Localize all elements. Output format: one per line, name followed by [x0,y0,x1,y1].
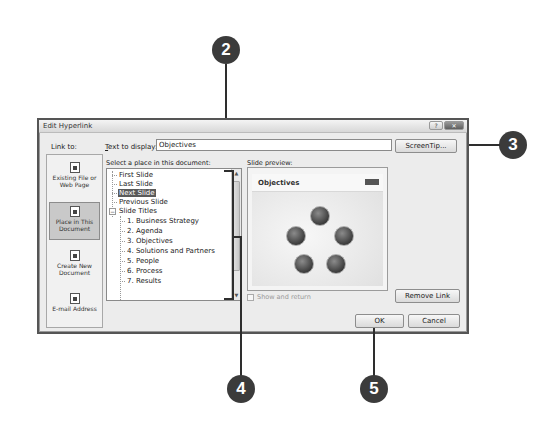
link-to-label: Link to: [51,143,77,151]
show-and-return-label: Show and return [257,293,311,301]
text-to-display-label-text: ext to display: [108,143,157,151]
tree-item-slide-6[interactable]: 6. Process [127,267,162,275]
edit-hyperlink-dialog: Edit Hyperlink ? ✕ Link to: Text to disp… [37,118,469,334]
diagram-bubble [286,226,306,246]
slide-logo [365,179,379,185]
tree-item-slide-4[interactable]: 4. Solutions and Partners [127,247,215,255]
tree-item-slide-5[interactable]: 5. People [127,257,159,265]
diagram-bubble [334,226,354,246]
sidebar-item-label: Create New [49,262,100,269]
text-to-display-label: Text to display: [105,143,157,151]
callout-5: 5 [360,375,388,403]
callout-4-bracket-top [224,170,234,172]
sidebar-item-label: Existing File or [49,174,100,181]
tree-connector [120,221,125,222]
sidebar-item-label: Web Page [49,181,100,188]
file-icon [70,162,80,173]
help-button[interactable]: ? [429,121,443,130]
tree-connector [120,271,125,272]
tree-connector [120,231,125,232]
email-icon [70,293,80,304]
link-to-sidebar: Existing File or Web Page Place in This … [46,154,103,328]
sidebar-item-label: E-mail Address [49,305,100,312]
tree-connector [120,241,125,242]
callout-3: 3 [499,131,527,159]
sidebar-item-existing-file[interactable]: Existing File or Web Page [49,159,100,197]
diagram-bubble [310,206,330,226]
slide-title-bar: Objectives [252,174,383,192]
sidebar-item-label: Document [50,225,99,232]
collapse-icon[interactable]: − [109,208,116,215]
tree-item-slide-3[interactable]: 3. Objectives [127,237,173,245]
ok-button[interactable]: OK [355,314,404,328]
tree-connector [112,184,117,185]
tree-item-previous-slide[interactable]: Previous Slide [119,198,168,206]
sidebar-item-create-new-document[interactable]: Create New Document [49,247,100,285]
document-place-icon [70,206,80,217]
tree-connector [120,261,125,262]
tree-connector [120,281,125,282]
place-tree: − First Slide Last Slide Next Slide Prev… [106,168,242,301]
callout-5-line [373,328,375,376]
select-place-label: Select a place in this document: [106,159,211,167]
cancel-button[interactable]: Cancel [408,314,460,328]
tree-item-slide-7[interactable]: 7. Results [127,277,161,285]
tree-item-first-slide[interactable]: First Slide [119,171,153,179]
sidebar-item-label: Document [49,269,100,276]
tree-item-slide-1[interactable]: 1. Business Strategy [127,217,199,225]
tree-item-next-slide[interactable]: Next Slide [118,189,156,197]
diagram-bubble [294,254,314,274]
tree-item-slide-2[interactable]: 2. Agenda [127,227,163,235]
tree-item-last-slide[interactable]: Last Slide [119,180,153,188]
scroll-thumb[interactable] [233,181,240,271]
callout-4-bracket-bottom [224,298,234,300]
sidebar-item-label: Place in This [50,218,99,225]
sidebar-item-email-address[interactable]: E-mail Address [49,290,100,328]
tree-connector [120,216,121,300]
slide-thumbnail: Objectives [252,174,383,286]
text-to-display-input[interactable] [156,139,392,151]
title-bar: Edit Hyperlink ? ✕ [39,120,467,133]
close-button[interactable]: ✕ [444,121,464,130]
diagram-bubble [326,254,346,274]
callout-4-bracket [232,170,234,300]
sidebar-item-place-in-document[interactable]: Place in This Document [49,202,100,240]
callout-2: 2 [212,36,240,64]
slide-preview: Objectives [247,167,388,291]
callout-4-line [240,236,242,376]
tree-connector [120,251,125,252]
tree-connector [112,202,117,203]
tree-connector [112,193,117,194]
remove-link-button[interactable]: Remove Link [395,289,460,303]
tree-connector [112,175,117,176]
slide-title: Objectives [258,179,299,187]
dialog-title: Edit Hyperlink [43,122,92,130]
show-and-return-checkbox[interactable] [247,294,254,301]
callout-4: 4 [227,375,255,403]
new-document-icon [70,250,80,261]
screentip-button[interactable]: ScreenTip... [395,139,457,153]
tree-item-slide-titles[interactable]: Slide Titles [119,207,157,215]
slide-preview-label: Slide preview: [247,159,292,167]
